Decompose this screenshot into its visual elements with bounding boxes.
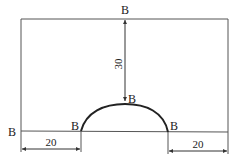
dimension-bottom-left-value: 20	[46, 136, 58, 148]
dimension-vertical-value: 30	[112, 58, 124, 70]
label-arc-top: B	[128, 92, 136, 106]
label-left-edge: B	[8, 125, 16, 139]
label-arc-right: B	[170, 119, 178, 133]
arch-curve	[81, 104, 168, 132]
label-arc-left: B	[71, 119, 79, 133]
dimension-bottom-right-value: 20	[193, 138, 205, 150]
label-top: B	[121, 3, 129, 17]
drawing-canvas: B B B B B 30 20 20	[0, 0, 234, 165]
